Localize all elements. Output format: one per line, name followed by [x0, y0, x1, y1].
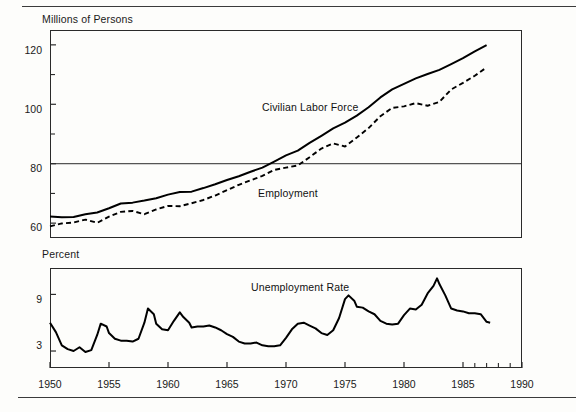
top-ytick-label-60: 60 [12, 221, 42, 233]
bottom-ytick-label-3: 3 [12, 339, 42, 351]
page-bottom-rule [18, 397, 576, 398]
top-chart-plot-area [50, 30, 522, 238]
series-label-unemployment-rate: Unemployment Rate [251, 281, 349, 293]
xtick-label-1960: 1960 [148, 378, 188, 390]
xtick-label-1955: 1955 [89, 378, 129, 390]
top-chart-y-axis-title: Millions of Persons [42, 13, 133, 25]
xtick-label-1970: 1970 [266, 378, 306, 390]
xtick-label-1950: 1950 [30, 378, 70, 390]
top-ytick-label-100: 100 [12, 103, 42, 115]
top-ytick-label-80: 80 [12, 162, 42, 174]
xtick-label-1985: 1985 [443, 378, 483, 390]
series-label-civilian-labor-force: Civilian Labor Force [262, 101, 358, 113]
bottom-chart-y-axis-title: Percent [42, 248, 79, 260]
bottom-ytick-label-9: 9 [12, 293, 42, 305]
xtick-label-1965: 1965 [207, 378, 247, 390]
xtick-label-1975: 1975 [325, 378, 365, 390]
series-label-employment: Employment [258, 187, 318, 199]
xtick-label-1980: 1980 [384, 378, 424, 390]
top-ytick-label-120: 120 [12, 44, 42, 56]
page-top-rule [22, 6, 576, 7]
xtick-label-1990: 1990 [502, 378, 542, 390]
chart-page: Millions of Persons Percent 120 100 80 6… [0, 0, 576, 412]
